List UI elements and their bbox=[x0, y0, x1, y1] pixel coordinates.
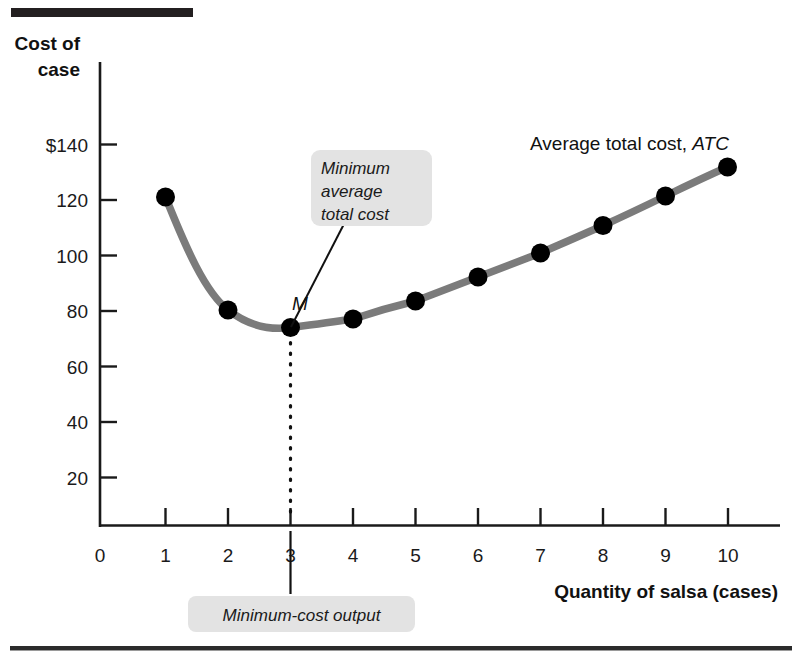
x-axis-ticks bbox=[166, 508, 729, 525]
data-point-7 bbox=[531, 244, 550, 263]
x-tick-label-10: 10 bbox=[717, 545, 738, 566]
x-tick-label-9: 9 bbox=[660, 545, 671, 566]
y-tick-label-100: 100 bbox=[56, 246, 88, 267]
curve-label: Average total cost, ATC bbox=[530, 133, 729, 154]
x-tick-label-1: 1 bbox=[160, 545, 171, 566]
x-tick-label-2: 2 bbox=[223, 545, 234, 566]
data-point-1 bbox=[156, 188, 175, 207]
data-point-3-minimum bbox=[281, 318, 300, 337]
x-tick-label-0: 0 bbox=[95, 545, 106, 566]
cost-curve-chart: $140 120 100 80 60 40 20 Cost of case 0 … bbox=[0, 0, 799, 657]
curve-label-text: Average total cost, bbox=[530, 133, 692, 154]
callout-line-1: Minimum bbox=[321, 159, 390, 178]
x-axis-title: Quantity of salsa (cases) bbox=[554, 581, 778, 602]
y-tick-label-80: 80 bbox=[67, 301, 88, 322]
x-tick-label-6: 6 bbox=[473, 545, 484, 566]
figure-container: $140 120 100 80 60 40 20 Cost of case 0 … bbox=[0, 0, 799, 657]
y-axis-ticks bbox=[100, 145, 117, 478]
y-tick-label-40: 40 bbox=[67, 412, 88, 433]
data-point-9 bbox=[656, 187, 675, 206]
data-point-4 bbox=[344, 310, 363, 329]
data-point-10 bbox=[718, 158, 737, 177]
y-tick-label-140: $140 bbox=[46, 135, 88, 156]
data-point-5 bbox=[406, 292, 425, 311]
data-point-2 bbox=[219, 301, 238, 320]
x-tick-label-5: 5 bbox=[410, 545, 421, 566]
atc-data-points bbox=[156, 158, 737, 338]
x-tick-label-8: 8 bbox=[598, 545, 609, 566]
data-point-8 bbox=[594, 216, 613, 235]
atc-curve bbox=[166, 167, 728, 328]
callout-leader-line bbox=[291, 222, 345, 327]
bottom-accent-rule bbox=[10, 646, 792, 650]
y-tick-label-20: 20 bbox=[67, 468, 88, 489]
minimum-cost-output-label: Minimum-cost output bbox=[223, 606, 382, 625]
callout-line-2: average bbox=[321, 182, 382, 201]
callout-line-3: total cost bbox=[321, 205, 390, 224]
y-tick-label-120: 120 bbox=[56, 190, 88, 211]
y-tick-label-60: 60 bbox=[67, 357, 88, 378]
y-axis-title-line1: Cost of bbox=[15, 33, 81, 54]
x-tick-label-4: 4 bbox=[348, 545, 359, 566]
data-point-6 bbox=[469, 268, 488, 287]
y-axis-title-line2: case bbox=[38, 59, 80, 80]
x-tick-label-7: 7 bbox=[535, 545, 546, 566]
curve-label-abbrev: ATC bbox=[691, 133, 729, 154]
